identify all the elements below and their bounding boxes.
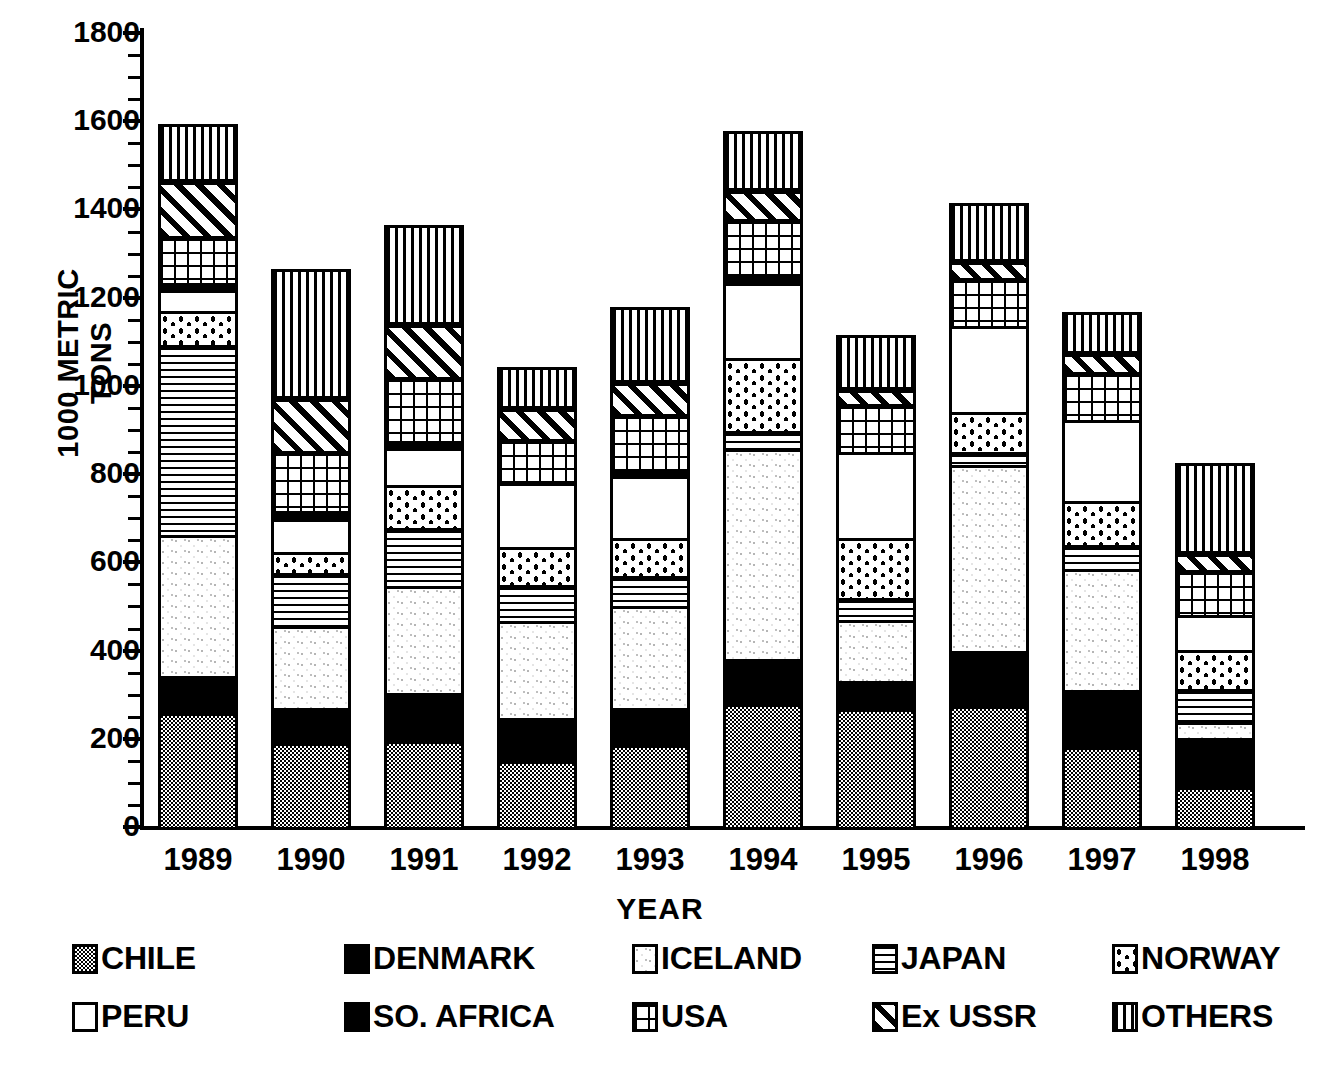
bar-segment-chile [1062, 747, 1142, 827]
legend-swatch-icon [72, 1002, 98, 1032]
bar-1991[interactable] [384, 33, 464, 827]
bar-1996[interactable] [949, 33, 1029, 827]
bar-segment-japan [384, 528, 464, 586]
bar-segment-others [158, 124, 238, 183]
bar-segment-usa [610, 414, 690, 470]
bar-segment-others [1062, 312, 1142, 354]
bar-segment-ex-ussr [158, 182, 238, 236]
legend-item-so-africa[interactable]: SO. AFRICA [344, 998, 555, 1035]
bar-segment-usa [723, 219, 803, 274]
bar-segment-ex-ussr [271, 399, 351, 451]
legend-swatch-icon [872, 1002, 898, 1032]
legend-label: OTHERS [1141, 998, 1273, 1035]
bar-segment-others [610, 307, 690, 383]
bar-segment-others [271, 269, 351, 399]
bar-segment-ex-ussr [497, 409, 577, 439]
legend-row: PERUSO. AFRICAUSAEx USSROTHERS [72, 998, 1272, 1042]
legend-label: SO. AFRICA [373, 998, 555, 1035]
bar-1990[interactable] [271, 33, 351, 827]
bar-segment-japan [271, 573, 351, 626]
bar-segment-ex-ussr [836, 390, 916, 403]
legend-row: CHILEDENMARKICELANDJAPANNORWAY [72, 940, 1272, 984]
bar-segment-denmark [497, 718, 577, 761]
bar-segment-norway [949, 412, 1029, 452]
bar-segment-others [497, 367, 577, 409]
bar-segment-norway [836, 538, 916, 598]
bar-segment-chile [497, 761, 577, 827]
bar-segment-iceland [610, 606, 690, 707]
bar-segment-others [836, 335, 916, 390]
bar-segment-so-africa [271, 511, 351, 519]
bar-segment-usa [271, 451, 351, 511]
bar-segment-peru [949, 326, 1029, 412]
bar-segment-japan [723, 431, 803, 449]
bar-segment-norway [1175, 650, 1255, 690]
bar-segment-denmark [271, 708, 351, 743]
x-tick-label-1995: 1995 [821, 842, 931, 878]
bar-segment-so-africa [610, 470, 690, 476]
bar-segment-denmark [836, 681, 916, 708]
legend-label: USA [661, 998, 728, 1035]
bar-segment-japan [1175, 689, 1255, 722]
bar-segment-japan [836, 598, 916, 620]
legend-item-usa[interactable]: USA [632, 998, 728, 1035]
bar-segment-usa [384, 377, 464, 441]
bar-segment-peru [1062, 420, 1142, 500]
legend-item-others[interactable]: OTHERS [1112, 998, 1273, 1035]
bar-1994[interactable] [723, 33, 803, 827]
bar-segment-ex-ussr [610, 383, 690, 414]
bar-segment-denmark [1175, 738, 1255, 787]
bar-segment-iceland [271, 626, 351, 708]
legend-item-japan[interactable]: JAPAN [872, 940, 1006, 977]
legend-label: DENMARK [373, 940, 535, 977]
bar-segment-norway [497, 547, 577, 586]
bar-segment-chile [610, 745, 690, 827]
legend-label: PERU [101, 998, 189, 1035]
bar-segment-iceland [723, 449, 803, 660]
legend-item-norway[interactable]: NORWAY [1112, 940, 1280, 977]
legend-item-peru[interactable]: PERU [72, 998, 189, 1035]
bar-1998[interactable] [1175, 33, 1255, 827]
legend-item-chile[interactable]: CHILE [72, 940, 196, 977]
x-tick-label-1998: 1998 [1160, 842, 1270, 878]
legend-swatch-icon [72, 944, 98, 974]
bar-segment-peru [836, 452, 916, 538]
bar-segment-peru [384, 448, 464, 485]
bar-segment-ex-ussr [384, 325, 464, 377]
bar-segment-chile [271, 743, 351, 827]
legend-swatch-icon [344, 944, 370, 974]
legend-item-ex-ussr[interactable]: Ex USSR [872, 998, 1037, 1035]
bar-segment-others [949, 203, 1029, 263]
bar-segment-chile [158, 713, 238, 827]
bar-1995[interactable] [836, 33, 916, 827]
bar-segment-peru [497, 483, 577, 546]
bar-segment-chile [836, 709, 916, 827]
legend-swatch-icon [872, 944, 898, 974]
x-tick-label-1991: 1991 [369, 842, 479, 878]
bar-segment-norway [384, 485, 464, 527]
bar-segment-usa [949, 278, 1029, 327]
bar-segment-denmark [1062, 690, 1142, 746]
bar-segment-iceland [158, 535, 238, 676]
legend-item-denmark[interactable]: DENMARK [344, 940, 535, 977]
bar-segment-peru [1175, 615, 1255, 649]
bar-segment-ex-ussr [1175, 554, 1255, 571]
x-tick-label-1996: 1996 [934, 842, 1044, 878]
bar-segment-usa [497, 439, 577, 483]
bar-segment-japan [1062, 545, 1142, 569]
bar-segment-usa [836, 404, 916, 453]
bar-segment-iceland [384, 586, 464, 693]
bar-segment-norway [271, 552, 351, 573]
bar-segment-others [1175, 463, 1255, 553]
bar-1992[interactable] [497, 33, 577, 827]
legend-item-iceland[interactable]: ICELAND [632, 940, 802, 977]
bar-1993[interactable] [610, 33, 690, 827]
bar-1989[interactable] [158, 33, 238, 827]
bar-segment-peru [271, 519, 351, 553]
chart-canvas: 1000 METRIC TONS 02004006008001000120014… [0, 0, 1320, 1077]
x-tick-label-1997: 1997 [1047, 842, 1157, 878]
legend-swatch-icon [1112, 944, 1138, 974]
bar-segment-iceland [1062, 569, 1142, 690]
x-axis-title: YEAR [0, 892, 1320, 926]
bar-1997[interactable] [1062, 33, 1142, 827]
